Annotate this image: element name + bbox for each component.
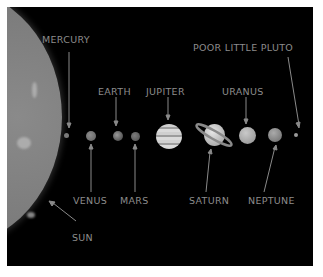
label-jupiter: JUPITER	[146, 87, 185, 97]
label-pluto: POOR LITTLE PLUTO	[193, 43, 293, 53]
label-mercury: MERCURY	[42, 35, 90, 45]
label-sun: SUN	[72, 233, 93, 243]
diagram-frame: MERCURY EARTH JUPITER URANUS POOR LITTLE…	[7, 7, 313, 266]
label-uranus: URANUS	[222, 87, 264, 97]
label-mars: MARS	[120, 196, 149, 206]
saturn-ring	[195, 122, 234, 149]
label-earth: EARTH	[98, 87, 131, 97]
label-neptune: NEPTUNE	[248, 196, 295, 206]
label-venus: VENUS	[73, 196, 107, 206]
label-saturn: SATURN	[189, 196, 229, 206]
